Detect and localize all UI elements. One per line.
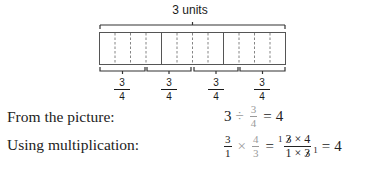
cancel-subscript: 1 — [313, 145, 318, 155]
reciprocal-fraction: 4 3 — [252, 134, 260, 159]
bottom-brackets — [100, 67, 285, 74]
top-bracket — [100, 22, 285, 29]
divisor-fraction: 3 4 — [250, 104, 258, 129]
division-equation: 3 ÷ 3 4 = 4 — [224, 101, 283, 131]
group-fraction-label: 3 4 — [161, 77, 177, 102]
cancel-superscript: 1 — [278, 134, 283, 144]
group-fraction-label: 3 4 — [254, 77, 270, 102]
group-fraction-label: 3 4 — [114, 77, 130, 102]
cancelled-three: 3 — [304, 148, 310, 159]
combined-fraction: 3 × 4 1 × 3 — [284, 134, 311, 159]
group-fraction-label: 3 4 — [208, 77, 224, 102]
using-multiplication-label: Using multiplication: — [7, 136, 139, 154]
whole-fraction: 3 1 — [224, 134, 232, 159]
cancelled-three: 3 — [285, 134, 291, 145]
from-picture-label: From the picture: — [7, 108, 115, 126]
bar-model — [0, 0, 365, 100]
multiplication-equation: 3 1 × 4 3 = 1 3 × 4 1 × 3 1 = 4 — [222, 130, 342, 162]
fraction-bar-diagram: 3 units — [0, 0, 365, 100]
